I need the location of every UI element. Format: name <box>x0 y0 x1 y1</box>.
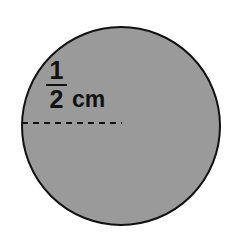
fraction-numerator: 1 <box>47 58 67 84</box>
fraction-one-half: 1 2 <box>46 58 67 112</box>
fraction-denominator: 2 <box>47 86 67 112</box>
circle-figure: 1 2 cm <box>0 0 238 237</box>
circle-diagram-svg <box>0 0 238 237</box>
radius-measurement-label: 1 2 cm <box>46 58 105 112</box>
unit-label: cm <box>72 88 105 111</box>
